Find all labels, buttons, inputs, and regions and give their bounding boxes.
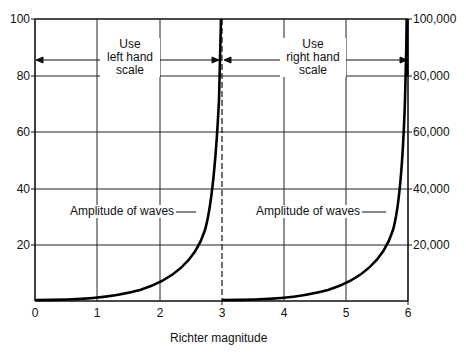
y-left-tick-100: 100 <box>0 13 30 26</box>
x-tick-4: 4 <box>274 307 294 320</box>
right-curve-label: Amplitude of waves <box>254 205 362 218</box>
y-right-tick-80000: 80,000 <box>413 70 450 83</box>
right-scale-note-line3: scale <box>282 64 344 77</box>
right-scale-note: Use right hand scale <box>280 38 346 77</box>
y-left-tick-40: 40 <box>0 183 30 196</box>
x-tick-1: 1 <box>87 307 107 320</box>
y-right-tick-100000: 100,000 <box>413 13 456 26</box>
x-tick-6: 6 <box>398 307 418 320</box>
y-left-tick-20: 20 <box>0 239 30 252</box>
y-right-tick-20000: 20,000 <box>413 239 450 252</box>
y-left-tick-60: 60 <box>0 126 30 139</box>
left-curve-label: Amplitude of waves <box>68 205 176 218</box>
x-tick-3: 3 <box>212 307 232 320</box>
x-axis-label: Richter magnitude <box>170 332 267 345</box>
y-right-tick-40000: 40,000 <box>413 183 450 196</box>
x-tick-5: 5 <box>336 307 356 320</box>
chart-canvas <box>0 0 466 355</box>
y-right-tick-60000: 60,000 <box>413 126 450 139</box>
y-left-tick-80: 80 <box>0 70 30 83</box>
left-scale-note-line3: scale <box>102 64 158 77</box>
x-tick-0: 0 <box>25 307 45 320</box>
left-scale-note: Use left hand scale <box>100 38 160 77</box>
x-tick-2: 2 <box>150 307 170 320</box>
